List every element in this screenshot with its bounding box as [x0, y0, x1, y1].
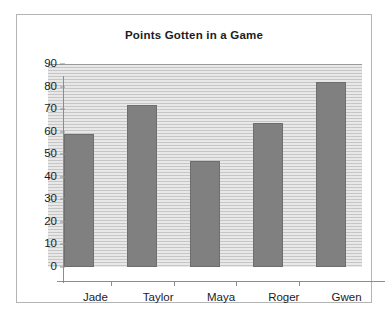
- x-axis-tick-label: Gwen: [315, 287, 378, 309]
- bar-gwen: [316, 82, 346, 267]
- y-axis-tick-label: 10: [23, 239, 57, 251]
- y-axis-tick-label: 40: [23, 171, 57, 183]
- bar-roger: [253, 123, 283, 267]
- y-axis-tick-label: 60: [23, 126, 57, 138]
- y-axis-line: [63, 76, 64, 283]
- plot-top-border: [48, 64, 362, 65]
- y-axis-tick-label: 20: [23, 216, 57, 228]
- x-axis-line: [57, 281, 385, 282]
- x-axis-tick-label: Taylor: [127, 287, 190, 309]
- y-axis-tick-mark: [60, 267, 65, 268]
- x-axis-tick-mark: [174, 281, 175, 286]
- bar-maya: [190, 161, 220, 267]
- x-axis-tick-label: Jade: [64, 287, 127, 309]
- y-axis-tick-mark: [60, 221, 65, 222]
- y-axis-tick-mark: [60, 176, 65, 177]
- y-axis-tick-mark: [60, 244, 65, 245]
- y-axis-tick-label: 30: [23, 194, 57, 206]
- y-axis-tick-mark: [60, 64, 65, 65]
- y-axis-tick-labels: 0102030405060708090: [17, 15, 57, 318]
- x-axis-tick-label: Maya: [190, 287, 253, 309]
- y-axis-tick-mark: [60, 86, 65, 87]
- x-axis-tick-label: Roger: [252, 287, 315, 309]
- y-axis-tick-mark: [60, 109, 65, 110]
- y-axis-tick-label: 0: [23, 261, 57, 273]
- bar-taylor: [127, 105, 157, 267]
- x-axis-tick-labels: JadeTaylorMayaRogerGwen: [64, 287, 378, 309]
- y-axis-tick-label: 50: [23, 148, 57, 160]
- x-axis-tick-mark: [299, 281, 300, 286]
- y-axis-tick-mark: [60, 154, 65, 155]
- y-axis-tick-label: 80: [23, 81, 57, 93]
- y-axis-tick-label: 70: [23, 103, 57, 115]
- y-axis-tick-mark: [60, 199, 65, 200]
- y-axis-tick-label: 90: [23, 58, 57, 70]
- x-axis-tick-mark: [236, 281, 237, 286]
- x-axis-tick-mark: [111, 281, 112, 286]
- plot-area: [48, 64, 362, 267]
- y-axis-tick-mark: [60, 131, 65, 132]
- bar-jade: [64, 134, 94, 267]
- chart-frame: Points Gotten in a Game 0102030405060708…: [16, 14, 372, 303]
- chart-title: Points Gotten in a Game: [17, 29, 371, 41]
